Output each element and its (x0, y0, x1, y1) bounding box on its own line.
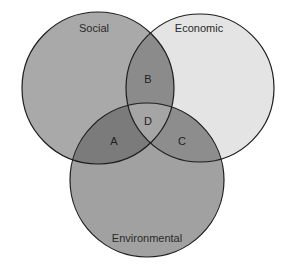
label-region-b: B (144, 73, 151, 85)
label-environmental: Environmental (112, 232, 182, 244)
label-region-a: A (110, 135, 118, 147)
label-region-c: C (178, 135, 186, 147)
label-economic: Economic (175, 22, 224, 34)
label-social: Social (79, 22, 109, 34)
label-region-d: D (144, 115, 152, 127)
venn-diagram: Social Economic Environmental B D A C (0, 0, 287, 272)
